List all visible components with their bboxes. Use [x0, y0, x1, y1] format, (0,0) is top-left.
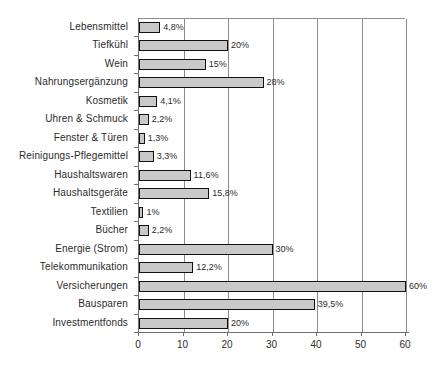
bar-row: 1,3% — [139, 130, 405, 148]
bar — [139, 96, 157, 107]
bar-row: 30% — [139, 241, 405, 259]
x-axis-tick-label: 60 — [399, 339, 410, 350]
y-axis-tick — [134, 92, 138, 93]
bar-row: 4,1% — [139, 93, 405, 111]
category-label: Nahrungsergänzung — [0, 73, 133, 91]
x-axis-tick-label: 0 — [135, 339, 141, 350]
bar-value-label: 11,6% — [191, 169, 219, 181]
y-axis-tick — [134, 36, 138, 37]
category-label: Uhren & Schmuck — [0, 110, 133, 128]
x-axis-tick-label: 20 — [221, 339, 232, 350]
bar — [139, 151, 154, 162]
bar-chart: LebensmittelTiefkühlWeinNahrungsergänzun… — [0, 0, 442, 365]
plot-area: 4,8%20%15%28%4,1%2,2%1,3%3,3%11,6%15,8%1… — [138, 18, 405, 332]
bar-value-label: 28% — [264, 76, 285, 88]
bar-value-label: 2,2% — [149, 224, 173, 236]
category-label: Haushaltsgeräte — [0, 184, 133, 202]
x-axis-line — [138, 332, 409, 333]
bar-value-label: 15,8% — [209, 187, 238, 199]
bar — [139, 318, 228, 329]
bar — [139, 114, 149, 125]
bar-row: 4,8% — [139, 19, 405, 37]
y-axis-tick — [134, 166, 138, 167]
y-axis-tick — [134, 184, 138, 185]
bar-row: 15% — [139, 56, 405, 74]
category-label: Reinigungs-Pflegemittel — [0, 147, 133, 165]
bar-value-label: 20% — [228, 317, 249, 329]
bar-row: 39,5% — [139, 296, 405, 314]
y-axis-tick — [134, 314, 138, 315]
y-axis-tick — [134, 295, 138, 296]
category-label: Telekommunikation — [0, 258, 133, 276]
bar-value-label: 12,2% — [193, 261, 222, 273]
bar-value-label: 4,8% — [160, 21, 184, 33]
y-axis-tick — [134, 147, 138, 148]
bar-value-label: 2,2% — [149, 113, 173, 125]
category-label: Lebensmittel — [0, 18, 133, 36]
bar-row: 12,2% — [139, 259, 405, 277]
bar — [139, 77, 264, 88]
bar-value-label: 1,3% — [145, 132, 169, 144]
x-axis-tick-label: 50 — [355, 339, 366, 350]
bar-value-label: 30% — [273, 243, 294, 255]
bar-row: 20% — [139, 315, 405, 333]
y-axis-tick — [134, 221, 138, 222]
bar-value-label: 3,3% — [154, 150, 178, 162]
y-axis-tick — [134, 55, 138, 56]
category-label: Fenster & Türen — [0, 129, 133, 147]
y-axis-tick — [134, 203, 138, 204]
category-label: Bausparen — [0, 295, 133, 313]
category-label: Tiefkühl — [0, 36, 133, 54]
category-label: Wein — [0, 55, 133, 73]
y-axis-tick — [134, 73, 138, 74]
bar-row: 2,2% — [139, 111, 405, 129]
x-axis-tick — [138, 332, 139, 336]
bar-value-label: 60% — [406, 280, 427, 292]
y-axis-tick — [134, 332, 138, 333]
y-axis-tick — [134, 110, 138, 111]
bar-value-label: 20% — [228, 39, 249, 51]
bar — [139, 262, 193, 273]
bar-row: 2,2% — [139, 222, 405, 240]
y-axis-tick — [134, 129, 138, 130]
bar — [139, 244, 273, 255]
bar-row: 20% — [139, 37, 405, 55]
bar — [139, 225, 149, 236]
bar-value-label: 39,5% — [315, 298, 344, 310]
bar-row: 3,3% — [139, 148, 405, 166]
x-axis-tick — [405, 332, 406, 336]
category-label: Textilien — [0, 203, 133, 221]
category-label: Investmentfonds — [0, 314, 133, 332]
x-axis-tick-label: 30 — [266, 339, 277, 350]
y-axis-tick — [134, 240, 138, 241]
bar — [139, 188, 209, 199]
bar — [139, 59, 206, 70]
x-axis-tick — [272, 332, 273, 336]
bar-row: 15,8% — [139, 185, 405, 203]
x-axis-tick-label: 40 — [310, 339, 321, 350]
bar-row: 28% — [139, 74, 405, 92]
x-axis-tick-label: 10 — [177, 339, 188, 350]
x-axis-tick — [183, 332, 184, 336]
category-label: Haushaltswaren — [0, 166, 133, 184]
bar — [139, 170, 191, 181]
category-label: Energie (Strom) — [0, 240, 133, 258]
category-axis-labels: LebensmittelTiefkühlWeinNahrungsergänzun… — [0, 18, 133, 332]
bar-row: 1% — [139, 204, 405, 222]
x-axis-tick — [316, 332, 317, 336]
bar-value-label: 4,1% — [157, 95, 181, 107]
x-axis-tick — [361, 332, 362, 336]
bar-row: 60% — [139, 278, 405, 296]
bar-row: 11,6% — [139, 167, 405, 185]
bar — [139, 299, 315, 310]
bar — [139, 281, 406, 292]
y-axis-tick — [134, 258, 138, 259]
bar-value-label: 1% — [143, 206, 159, 218]
bar — [139, 22, 160, 33]
x-axis-tick — [227, 332, 228, 336]
category-label: Versicherungen — [0, 277, 133, 295]
category-label: Kosmetik — [0, 92, 133, 110]
category-label: Bücher — [0, 221, 133, 239]
bar — [139, 40, 228, 51]
bar-value-label: 15% — [206, 58, 227, 70]
